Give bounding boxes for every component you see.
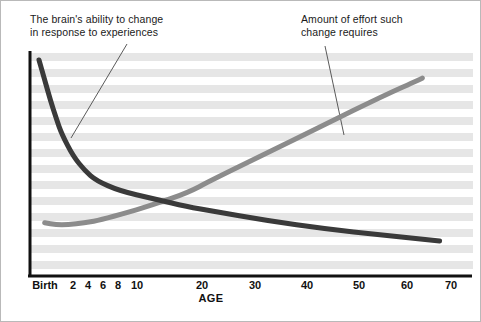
- grid-band: [30, 101, 473, 109]
- x-tick-label-2: 2: [70, 279, 76, 291]
- grid-band: [30, 149, 473, 157]
- x-tick-label-4: 4: [85, 279, 91, 291]
- grid-band: [30, 197, 473, 205]
- x-tick-label-birth: Birth: [32, 279, 58, 291]
- grid-band: [30, 261, 473, 269]
- plot-area: [1, 1, 481, 322]
- x-tick-label-60: 60: [401, 279, 413, 291]
- x-tick-label-50: 50: [353, 279, 365, 291]
- x-tick-label-40: 40: [301, 279, 313, 291]
- grid-band: [30, 69, 473, 77]
- x-tick-label-20: 20: [196, 279, 208, 291]
- grid-band: [30, 117, 473, 125]
- x-axis-title: AGE: [198, 292, 223, 304]
- grid-band: [30, 53, 473, 61]
- chart-figure: The brain's ability to change in respons…: [0, 0, 481, 322]
- x-tick-label-8: 8: [115, 279, 121, 291]
- x-tick-label-70: 70: [445, 279, 457, 291]
- grid-band: [30, 165, 473, 173]
- grid-band: [30, 245, 473, 253]
- x-tick-label-10: 10: [131, 279, 143, 291]
- grid-band: [30, 133, 473, 141]
- x-tick-label-6: 6: [100, 279, 106, 291]
- x-tick-label-30: 30: [249, 279, 261, 291]
